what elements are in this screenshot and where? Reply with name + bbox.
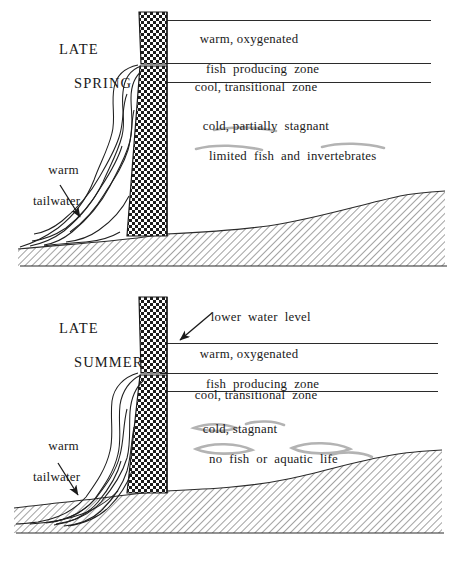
tailwater-line-1: warm [48, 438, 78, 453]
season-label-spring: LATE SPRING [40, 24, 132, 127]
panel-late-summer: LATE SUMMER lower water level warm, oxyg… [0, 285, 459, 570]
season-line-1: LATE [59, 41, 99, 57]
panel-late-spring: LATE SPRING warm, oxygenated fish produc… [0, 0, 459, 285]
zone-cold-line-1: cold, partially stagnant [203, 119, 329, 133]
zone-warm-line-1: warm, oxygenated [200, 347, 299, 361]
season-line-2: SUMMER [40, 354, 143, 371]
season-label-summer: LATE SUMMER [40, 303, 143, 406]
tailwater-label-spring: warm tailwater [33, 147, 80, 239]
zone-cold-line-2: no fish or aquatic life [189, 452, 338, 467]
zone-cool-line-1: cool, transitional zone [195, 388, 318, 402]
tailwater-line-2: tailwater [33, 193, 80, 208]
zone-label-cold-spring: cold, partially stagnant limited fish an… [189, 104, 376, 195]
zone-cold-line-2: limited fish and invertebrates [189, 149, 376, 164]
season-line-2: SPRING [40, 75, 132, 92]
zone-cold-line-1: cold, stagnant [203, 422, 278, 436]
tailwater-line-1: warm [48, 162, 78, 177]
water-level-text: lower water level [211, 310, 311, 324]
zone-label-cold-summer: cold, stagnant no fish or aquatic life [189, 407, 338, 498]
zone-cool-line-1: cool, transitional zone [195, 80, 318, 94]
season-line-1: LATE [59, 320, 99, 336]
tailwater-line-2: tailwater [33, 469, 80, 484]
dam-crest [139, 12, 167, 64]
dam-body [127, 66, 167, 236]
dam-structure [127, 12, 167, 236]
zone-warm-line-1: warm, oxygenated [200, 32, 299, 46]
tailwater-label-summer: warm tailwater [33, 423, 80, 515]
